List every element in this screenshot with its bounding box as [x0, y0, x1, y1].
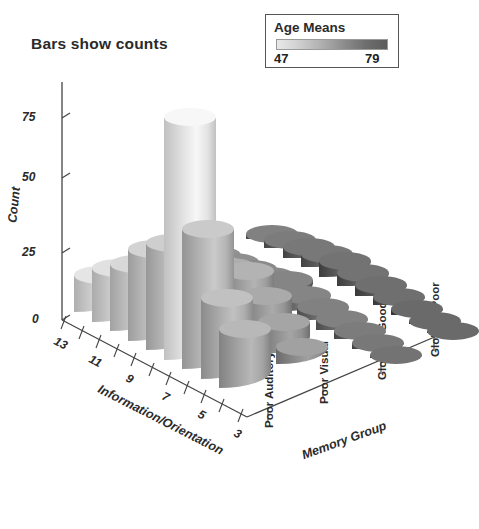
y-tick-75: 75 [22, 110, 35, 124]
legend-max-label: 79 [365, 51, 379, 66]
bar-cylinder [370, 346, 422, 367]
x-tick-11: 11 [87, 352, 104, 370]
legend-color-ramp [276, 39, 388, 50]
x-tick-5: 5 [196, 407, 208, 423]
bar-top-ellipse [370, 346, 422, 364]
legend-min-label: 47 [274, 51, 288, 66]
x-tick-9: 9 [124, 371, 136, 387]
legend-title: Age Means [274, 20, 345, 35]
bar-top-ellipse [219, 320, 271, 338]
bar-cylinder [219, 320, 271, 397]
y-tick-0: 0 [32, 312, 39, 326]
bar-cylinder [276, 338, 328, 372]
y-tick-25: 25 [22, 245, 35, 259]
x-tick-13: 13 [52, 334, 70, 353]
x-tick-7: 7 [160, 389, 172, 405]
y-tick-50: 50 [22, 170, 35, 184]
bar-cylinder [427, 322, 479, 343]
y-axis-title: Count [5, 186, 23, 223]
bar-top-ellipse [427, 322, 479, 340]
chart-title: Bars show counts [31, 35, 168, 53]
x-axis-title: Information/Orientation [96, 382, 226, 458]
bar-top-ellipse [201, 289, 253, 307]
x-tick-3: 3 [232, 426, 244, 442]
z-axis-title: Memory Group [300, 419, 388, 463]
